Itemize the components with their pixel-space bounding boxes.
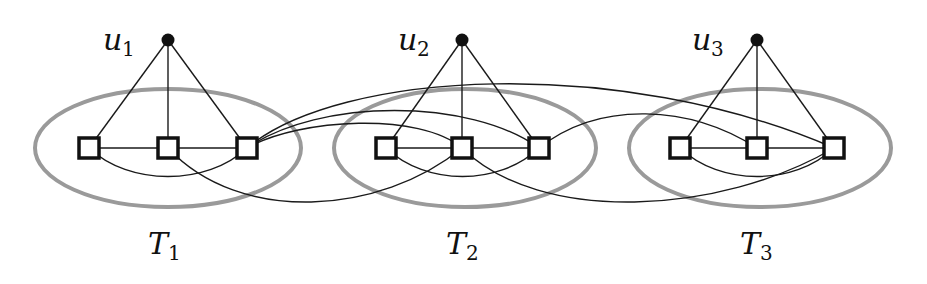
apex-label-u3: u (692, 22, 711, 57)
graph-diagram: T1T2T3u1u2u3 (0, 0, 927, 284)
apex-edge (168, 40, 247, 148)
square-node (452, 138, 472, 158)
square-node (747, 138, 767, 158)
edges (89, 40, 834, 202)
apex-node-u3 (751, 34, 764, 47)
apex-label-u1: u (103, 22, 122, 57)
square-node (237, 138, 257, 158)
group-label-t2: T (446, 226, 468, 261)
square-node (158, 138, 178, 158)
square-node (79, 138, 99, 158)
cross-edge (168, 148, 462, 202)
apex-node-u1 (162, 34, 175, 47)
cross-edge (462, 148, 834, 202)
group-label-t1: T (148, 226, 170, 261)
apex-label-u2: u (398, 22, 417, 57)
square-node (670, 138, 690, 158)
apex-label-subscript: 3 (711, 37, 724, 61)
group-label-subscript: 2 (466, 241, 479, 265)
group-label-t3: T (740, 226, 762, 261)
group-label-subscript: 3 (760, 241, 773, 265)
apex-node-u2 (456, 34, 469, 47)
apex-label-subscript: 1 (122, 37, 135, 61)
group-label-subscript: 1 (168, 241, 181, 265)
square-node (529, 138, 549, 158)
square-node (824, 138, 844, 158)
apex-label-subscript: 2 (417, 37, 430, 61)
square-node (376, 138, 396, 158)
